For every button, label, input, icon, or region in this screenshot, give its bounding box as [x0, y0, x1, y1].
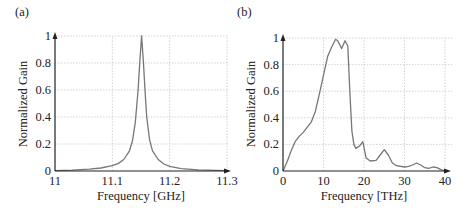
x-ticks-b: 010203040 [280, 174, 451, 188]
y-tick-label: 0.6 [263, 84, 279, 98]
x-ticks-a: 1111.111.211.3 [49, 174, 238, 188]
grid-a [55, 36, 228, 171]
y-tick-label: 0.4 [35, 110, 51, 124]
x-tick-label: 0 [280, 174, 286, 188]
x-tick-label: 10 [317, 174, 330, 188]
x-tick-label: 11.1 [102, 174, 123, 188]
x-tick-label: 20 [358, 174, 371, 188]
y-tick-label: 0 [273, 164, 279, 178]
y-tick-label: 0.8 [35, 56, 51, 70]
chart-a: (a) 00.20.40.60.81 1111.111.211.3 Freque… [15, 5, 238, 203]
y-tick-label: 1 [273, 31, 279, 45]
x-tick-label: 40 [439, 174, 452, 188]
y-tick-label: 0.4 [263, 111, 279, 125]
x-tick-label: 11 [49, 174, 61, 188]
y-ticks-b: 00.20.40.60.81 [263, 31, 279, 178]
gain-curve-a [55, 36, 227, 171]
x-axis-label-b: Frequency [THz] [321, 189, 407, 203]
chart-b: (b) 00.20.40.60.81 010203040 Frequency [… [237, 5, 452, 203]
panel-label-b: (b) [237, 5, 252, 19]
y-axis-label-a: Normalized Gain [16, 60, 30, 147]
y-ticks-a: 00.20.40.60.81 [35, 29, 51, 178]
x-axis-arrow-icon-a [224, 169, 231, 174]
x-tick-label: 30 [398, 174, 411, 188]
y-tick-label: 0.6 [35, 83, 51, 97]
y-axis-arrow-icon-a [53, 32, 58, 39]
y-tick-label: 0.8 [263, 58, 279, 72]
y-axis-label-b: Normalized Gain [244, 60, 258, 147]
y-tick-label: 1 [45, 29, 51, 43]
y-tick-label: 0.2 [263, 137, 279, 151]
x-tick-label: 11.2 [159, 174, 180, 188]
y-tick-label: 0.2 [35, 137, 51, 151]
y-axis-arrow-icon-b [281, 34, 286, 41]
x-axis-arrow-icon-b [444, 169, 451, 174]
panel-label-a: (a) [15, 5, 29, 19]
figure: (a) 00.20.40.60.81 1111.111.211.3 Freque… [0, 0, 469, 210]
x-axis-label-a: Frequency [GHz] [97, 189, 185, 203]
grid-b [283, 38, 452, 171]
x-tick-label: 11.3 [216, 174, 237, 188]
